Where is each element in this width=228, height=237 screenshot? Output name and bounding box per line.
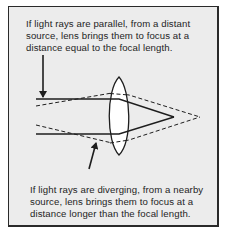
caption-diverging-rays: If light rays are diverging, from a near… <box>30 184 203 220</box>
caption-line: source, lens brings them to focus at a <box>30 196 203 208</box>
caption-line: If light rays are diverging, from a near… <box>30 184 203 196</box>
parallel-ray-lower <box>36 117 174 134</box>
parallel-rays <box>36 99 174 134</box>
convex-lens-icon <box>109 77 129 155</box>
parallel-ray-upper <box>36 99 174 117</box>
arrow-up-icon <box>89 143 96 169</box>
caption-line: distance longer than the focal length. <box>30 208 203 220</box>
